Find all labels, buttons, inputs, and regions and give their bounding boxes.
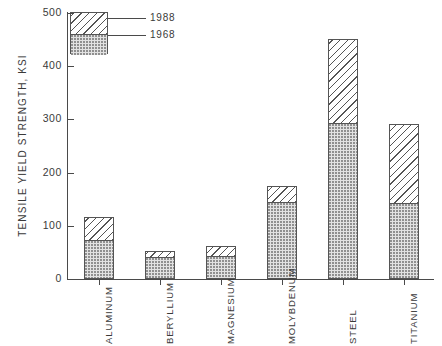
x-axis-label-beryllium: BERYLLIUM (164, 282, 175, 344)
legend-swatch-1968 (71, 35, 107, 55)
y-axis-tick-label-500: 500 (26, 6, 62, 18)
bar-segment-1968-magnesium (206, 256, 236, 279)
bar-group-molybdenum (267, 186, 297, 279)
legend-label-1988: 1988 (150, 12, 175, 23)
y-axis-tick-0 (68, 279, 74, 280)
legend-leader-1988 (108, 18, 146, 19)
x-axis-tick-molybdenum (282, 280, 283, 285)
bar-segment-1988-titanium (389, 124, 419, 204)
y-axis-tick-label-200: 200 (26, 166, 62, 178)
x-axis-label-molybdenum: MOLYBDENUM (286, 268, 297, 344)
bar-segment-1968-titanium (389, 203, 419, 279)
x-axis-label-magnesium: MAGNESIUM (225, 277, 236, 344)
bar-group-aluminum (84, 217, 114, 279)
y-axis-tick-label-300: 300 (26, 112, 62, 124)
y-axis-tick-label-100: 100 (26, 219, 62, 231)
x-axis-tick-steel (343, 280, 344, 285)
x-axis-tick-magnesium (221, 280, 222, 285)
y-axis-tick-labels: 0100200300400500 (20, 0, 62, 346)
legend-swatch-1988 (71, 13, 107, 35)
legend-label-1968: 1968 (150, 29, 175, 40)
bar-segment-1988-steel (328, 39, 358, 125)
y-axis-tick-500 (68, 13, 74, 14)
bar-group-titanium (389, 124, 419, 279)
x-axis-label-titanium: TITANIUM (408, 293, 419, 344)
x-axis-label-steel: STEEL (347, 309, 358, 344)
bar-segment-1988-molybdenum (267, 186, 297, 203)
legend-swatch (70, 12, 108, 54)
bar-group-magnesium (206, 246, 236, 279)
y-axis-tick-300 (68, 119, 74, 120)
y-axis-line (67, 12, 68, 280)
x-axis-tick-beryllium (160, 280, 161, 285)
bar-group-beryllium (145, 251, 175, 279)
y-axis-tick-label-0: 0 (26, 272, 62, 284)
x-axis-tick-titanium (404, 280, 405, 285)
bar-group-steel (328, 39, 358, 279)
bar-segment-1968-beryllium (145, 257, 175, 279)
x-axis-tick-aluminum (99, 280, 100, 285)
legend-leader-1968 (108, 35, 146, 36)
chart-legend: 1988 1968 (70, 12, 210, 56)
y-axis-tick-100 (68, 226, 74, 227)
x-axis-line (67, 279, 434, 280)
y-axis-tick-200 (68, 173, 74, 174)
y-axis-tick-label-400: 400 (26, 59, 62, 71)
bar-segment-1968-aluminum (84, 240, 114, 279)
bar-segment-1988-aluminum (84, 217, 114, 241)
chart-figure: TENSILE YIELD STRENGTH, KSI 010020030040… (0, 0, 442, 346)
y-axis-tick-400 (68, 66, 74, 67)
bar-segment-1968-steel (328, 123, 358, 279)
x-axis-label-aluminum: ALUMINUM (103, 286, 114, 344)
